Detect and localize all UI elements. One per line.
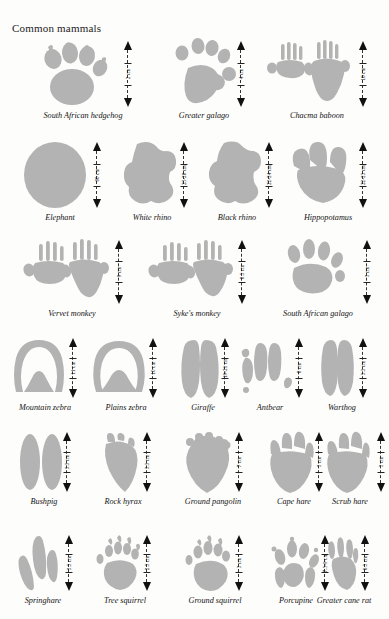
scale-value: 2 cm (125, 69, 131, 79)
caption-white-rhino: White rhino (105, 214, 199, 222)
arrow-up-icon (143, 432, 151, 441)
scale-arrow-plains-zebra: 10 cm (144, 338, 162, 398)
track-entry-greater-galago: 4 cm Greater galago (152, 38, 256, 112)
track-entry-plains-zebra: 10 cm Plains zebra (86, 338, 166, 400)
scale-arrow-chacma-baboon: 16 cm (354, 41, 372, 107)
arrow-up-icon (69, 338, 77, 347)
arrow-up-icon (63, 432, 71, 441)
caption-bushpig: Bushpig (6, 498, 82, 506)
arrow-down-icon (359, 98, 367, 107)
track-entry-sykes-monkey: 8.5 cm Syke's monkey (138, 238, 256, 304)
arrow-down-icon (361, 582, 369, 591)
track-entry-scrub-hare: 3 cm Scrub hare (322, 432, 378, 494)
track-entry-elephant: 80 cm Elephant (8, 140, 112, 210)
arrow-up-icon (235, 535, 243, 544)
arrow-up-icon (359, 338, 367, 347)
chart-row-5: 5.5 cm Bushpig (0, 432, 378, 510)
arrow-up-icon (295, 338, 303, 347)
arrow-up-icon (93, 142, 101, 151)
track-entry-hippopotamus: 22-25 cm Hippopotamus (278, 140, 378, 210)
arrow-up-icon (361, 535, 369, 544)
track-entry-springhare: 3.5 cm Springhare (4, 535, 82, 591)
scale-arrow-ground-pangolin: 7 cm (230, 432, 248, 492)
track-entry-tree-squirrel: 2.5 cm Tree squirrel (82, 535, 168, 591)
caption-rock-hyrax: Rock hyrax (82, 498, 164, 506)
arrow-down-icon (115, 295, 123, 304)
scale-arrow-hippopotamus: 22-25 cm (354, 142, 372, 208)
caption-tree-squirrel: Tree squirrel (82, 597, 168, 605)
track-entry-black-rhino: 22-24 cm Black rhino (190, 140, 284, 210)
arrow-down-icon (69, 389, 77, 398)
caption-scrub-hare: Scrub hare (316, 498, 384, 506)
scale-arrow-warthog: 5.5 cm (354, 338, 372, 398)
scale-arrow-sykes-monkey: 8.5 cm (233, 240, 251, 304)
scale-arrow-south-african-hedgehog: 2 cm (119, 41, 137, 107)
arrow-down-icon (221, 389, 229, 398)
track-illustration-ground-pangolin (180, 432, 262, 494)
caption-sykes-monkey: Syke's monkey (138, 310, 256, 318)
arrow-up-icon (149, 338, 157, 347)
caption-warthog: Warthog (306, 404, 378, 412)
arrow-up-icon (363, 240, 371, 249)
caption-giraffe: Giraffe (168, 404, 238, 412)
track-entry-warthog: 5.5 cm Warthog (306, 338, 378, 400)
arrow-up-icon (124, 41, 132, 50)
scale-value: 8 cm (296, 363, 302, 373)
scale-arrow-south-african-galago: 3 cm (358, 240, 376, 304)
chart-row-6: 3.5 cm Springhare (0, 535, 378, 613)
scale-value: 80 cm (94, 168, 100, 181)
arrow-down-icon (238, 295, 246, 304)
scale-value: 19-21 cm (222, 358, 228, 378)
arrow-up-icon (143, 535, 151, 544)
arrow-down-icon (65, 582, 73, 591)
scale-value: 16 cm (360, 67, 366, 80)
scale-arrow-tree-squirrel: 2.5 cm (138, 535, 156, 591)
arrow-up-icon (237, 41, 245, 50)
arrow-up-icon (265, 142, 273, 151)
scale-value: 5.5 cm (360, 361, 366, 375)
scale-value: 23-28 cm (181, 165, 187, 185)
track-illustration-tree-squirrel (94, 535, 168, 591)
scale-arrow-bushpig: 5.5 cm (58, 432, 76, 492)
scale-value: 4 cm (238, 69, 244, 79)
page-title: Common mammals (12, 22, 101, 34)
chart-row-3: 9 cm Vervet monkey (0, 238, 378, 320)
scale-value: 6.5 cm (362, 556, 368, 570)
scale-arrow-vervet-monkey: 9 cm (110, 240, 128, 304)
scale-value: 3 cm (364, 267, 370, 277)
track-entry-south-african-galago: 3 cm South African galago (258, 238, 378, 304)
scale-value: 22-24 cm (266, 165, 272, 185)
scale-arrow-black-rhino: 22-24 cm (260, 142, 278, 208)
scale-value: 9 cm (116, 267, 122, 277)
track-entry-chacma-baboon: 16 cm Chacma baboon (258, 38, 376, 112)
scale-arrow-greater-cane-rat: 6.5 cm (356, 535, 374, 591)
arrow-up-icon (180, 142, 188, 151)
arrow-down-icon (124, 98, 132, 107)
scale-value: 7 cm (236, 457, 242, 467)
arrow-down-icon (63, 483, 71, 492)
arrow-down-icon (180, 199, 188, 208)
arrow-up-icon (359, 142, 367, 151)
track-entry-south-african-hedgehog: 2 cm South African hedgehog (18, 38, 148, 112)
arrow-up-icon (221, 338, 229, 347)
arrow-down-icon (143, 582, 151, 591)
track-illustration-ground-squirrel (182, 535, 262, 591)
scale-value: 10 cm (150, 361, 156, 374)
track-entry-giraffe: 19-21 cm Giraffe (168, 338, 238, 400)
arrow-down-icon (295, 389, 303, 398)
scale-value: 8.5 cm (239, 265, 245, 279)
track-entry-ground-pangolin: 7 cm Ground pangolin (164, 432, 262, 494)
arrow-down-icon (363, 295, 371, 304)
arrow-down-icon (377, 483, 385, 492)
caption-ground-squirrel: Ground squirrel (168, 597, 262, 605)
track-entry-rock-hyrax: 3.5 cm Rock hyrax (82, 432, 164, 494)
caption-vervet-monkey: Vervet monkey (10, 310, 134, 318)
arrow-down-icon (143, 483, 151, 492)
scale-value: 11 cm (70, 362, 76, 375)
arrow-down-icon (359, 199, 367, 208)
track-entry-white-rhino: 23-28 cm White rhino (105, 140, 199, 210)
caption-springhare: Springhare (4, 597, 82, 605)
arrow-up-icon (238, 240, 246, 249)
scale-value: 5.5 cm (64, 455, 70, 469)
